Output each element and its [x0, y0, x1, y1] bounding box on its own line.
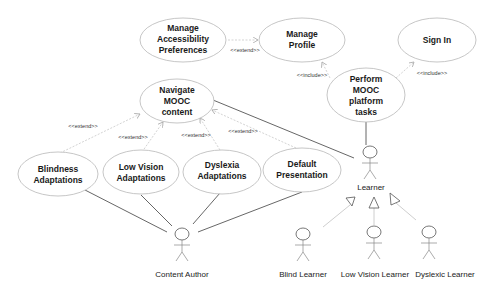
svg-text:tasks: tasks: [355, 107, 377, 117]
gen-line-dyslexic: [396, 203, 416, 220]
usecase-manage-accessibility: Manage Accessibility Preferences: [140, 18, 226, 62]
usecase-perform-mooc: Perform MOOC platform tasks: [327, 68, 405, 122]
svg-text:Adaptations: Adaptations: [197, 171, 246, 181]
svg-text:MOOC: MOOC: [353, 85, 379, 95]
assoc-author-blindness: [85, 190, 167, 232]
extend-label-accessibility-profile: <<extend>>: [230, 47, 259, 53]
actor-head-icon: [175, 228, 189, 240]
svg-text:Adaptations: Adaptations: [116, 173, 165, 183]
svg-text:Learner: Learner: [357, 183, 385, 192]
actor-head-icon: [363, 146, 377, 158]
use-case-diagram: <<extend>> <<include>> <<include>> <<ext…: [0, 0, 495, 285]
include-edge-perform-signin: [396, 62, 414, 78]
gen-arrowhead-dyslexic: [390, 193, 400, 205]
svg-text:Blind Learner: Blind Learner: [279, 270, 327, 279]
include-label-perform-signin: <<include>>: [417, 70, 447, 76]
svg-text:Adaptations: Adaptations: [33, 175, 82, 185]
actor-head-icon: [296, 228, 310, 240]
actor-head-icon: [367, 226, 381, 238]
svg-text:Navigate: Navigate: [159, 85, 195, 95]
actor-low-vision-learner: Low Vision Learner: [341, 226, 410, 279]
actor-dyslexic-learner: Dyslexic Learner: [415, 226, 475, 279]
svg-text:Presentation: Presentation: [276, 170, 328, 180]
usecase-low-vision-adaptations: Low Vision Adaptations: [103, 150, 179, 194]
actor-blind-learner: Blind Learner: [279, 228, 327, 279]
usecase-sign-in: Sign In: [398, 18, 476, 62]
assoc-author-dyslexia: [193, 193, 220, 224]
svg-text:Low Vision Learner: Low Vision Learner: [341, 270, 410, 279]
svg-text:Dyslexia: Dyslexia: [205, 160, 240, 170]
svg-text:MOOC: MOOC: [164, 96, 190, 106]
svg-text:platform: platform: [349, 96, 383, 106]
svg-text:Profile: Profile: [289, 40, 316, 50]
svg-text:content: content: [162, 107, 193, 117]
gen-line-blind: [323, 205, 350, 227]
svg-text:Content Author: Content Author: [155, 270, 209, 279]
include-label-perform-profile: <<include>>: [297, 72, 327, 78]
gen-arrowhead-blind: [346, 197, 355, 206]
usecase-default-presentation: Default Presentation: [263, 148, 341, 192]
usecase-manage-profile: Manage Profile: [259, 18, 345, 62]
svg-text:Low Vision: Low Vision: [119, 162, 164, 172]
svg-text:Manage: Manage: [167, 23, 199, 33]
gen-arrowhead-lowvision: [369, 197, 379, 208]
assoc-author-default: [198, 192, 302, 232]
actor-learner: Learner: [357, 146, 385, 192]
actor-head-icon: [422, 226, 436, 238]
extend-label-dyslexia: <<extend>>: [181, 132, 210, 138]
svg-text:Accessibility: Accessibility: [157, 34, 209, 44]
extend-label-default: <<extend>>: [228, 128, 257, 134]
svg-text:Sign In: Sign In: [423, 35, 451, 45]
extend-label-blindness: <<extend>>: [68, 123, 97, 129]
svg-text:Dyslexic Learner: Dyslexic Learner: [415, 270, 475, 279]
svg-text:Preferences: Preferences: [159, 45, 208, 55]
svg-text:Default: Default: [288, 159, 317, 169]
svg-text:Blindness: Blindness: [38, 164, 79, 174]
usecase-dyslexia-adaptations: Dyslexia Adaptations: [183, 150, 261, 194]
usecase-navigate-mooc: Navigate MOOC content: [140, 79, 214, 123]
usecase-blindness-adaptations: Blindness Adaptations: [18, 152, 98, 196]
svg-text:Perform: Perform: [350, 74, 383, 84]
svg-text:Manage: Manage: [286, 29, 318, 39]
extend-label-lowvision: <<extend>>: [118, 134, 147, 140]
actor-content-author: Content Author: [155, 228, 209, 279]
